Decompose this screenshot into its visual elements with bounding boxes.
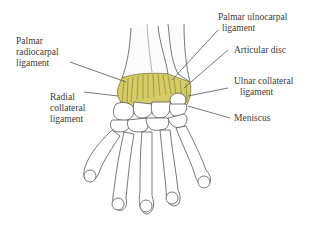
carpal-bones xyxy=(110,102,187,132)
label-ulnar-collateral-ligament: Ulnar collateral ligament xyxy=(234,76,293,98)
label-articular-disc: Articular disc xyxy=(234,45,286,56)
label-radial-collateral-ligament: Radial collateral ligament xyxy=(50,92,85,125)
leader-articular-disc xyxy=(184,50,228,88)
leader-ulnar-collateral xyxy=(188,88,228,96)
label-palmar-ulnocarpal-ligament: Palmar ulnocarpal ligament xyxy=(218,12,287,34)
ulna-bone xyxy=(168,24,190,82)
label-meniscus: Meniscus xyxy=(234,113,270,124)
leader-meniscus xyxy=(188,106,230,118)
label-palmar-radiocarpal-ligament: Palmar radiocarpal ligament xyxy=(16,36,59,69)
radius-bone xyxy=(122,26,168,78)
leader-radial-collateral xyxy=(84,92,118,96)
wrist-ligament-diagram: Palmar radiocarpal ligament Radial colla… xyxy=(0,0,316,226)
finger-bones xyxy=(84,126,211,214)
leader-palmar-radiocarpal xyxy=(70,62,126,82)
